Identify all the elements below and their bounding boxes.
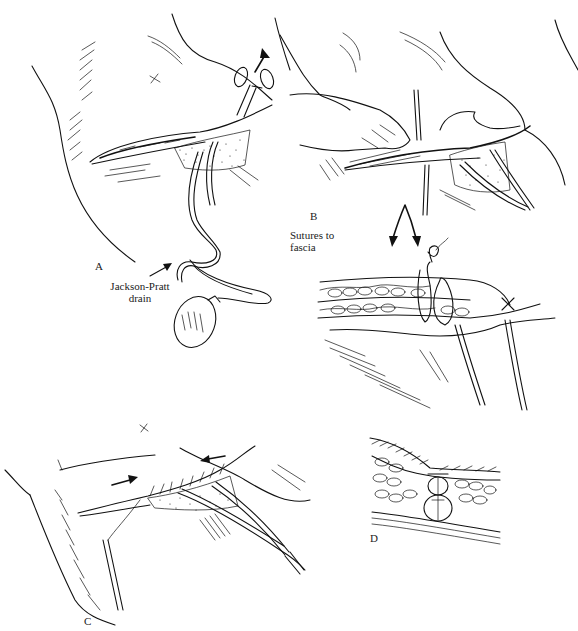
panel-c-drawing bbox=[5, 424, 310, 625]
sutures-annotation-line1: Sutures to bbox=[290, 229, 334, 241]
panel-label-d: D bbox=[370, 532, 378, 544]
panel-label-b: B bbox=[310, 210, 317, 222]
drain-annotation: Jackson-Pratt drain bbox=[100, 280, 180, 304]
panel-b-drawing bbox=[280, 20, 578, 247]
panel-d-drawing bbox=[370, 438, 500, 544]
sutures-annotation-line2: fascia bbox=[290, 241, 334, 253]
surgical-illustration bbox=[0, 0, 578, 631]
panel-label-a: A bbox=[95, 260, 103, 272]
panel-b-detail-drawing bbox=[318, 238, 555, 410]
drain-annotation-line2: drain bbox=[100, 292, 180, 304]
panel-label-c: C bbox=[84, 615, 91, 627]
sutures-annotation: Sutures to fascia bbox=[290, 229, 334, 253]
drain-annotation-line1: Jackson-Pratt bbox=[100, 280, 180, 292]
